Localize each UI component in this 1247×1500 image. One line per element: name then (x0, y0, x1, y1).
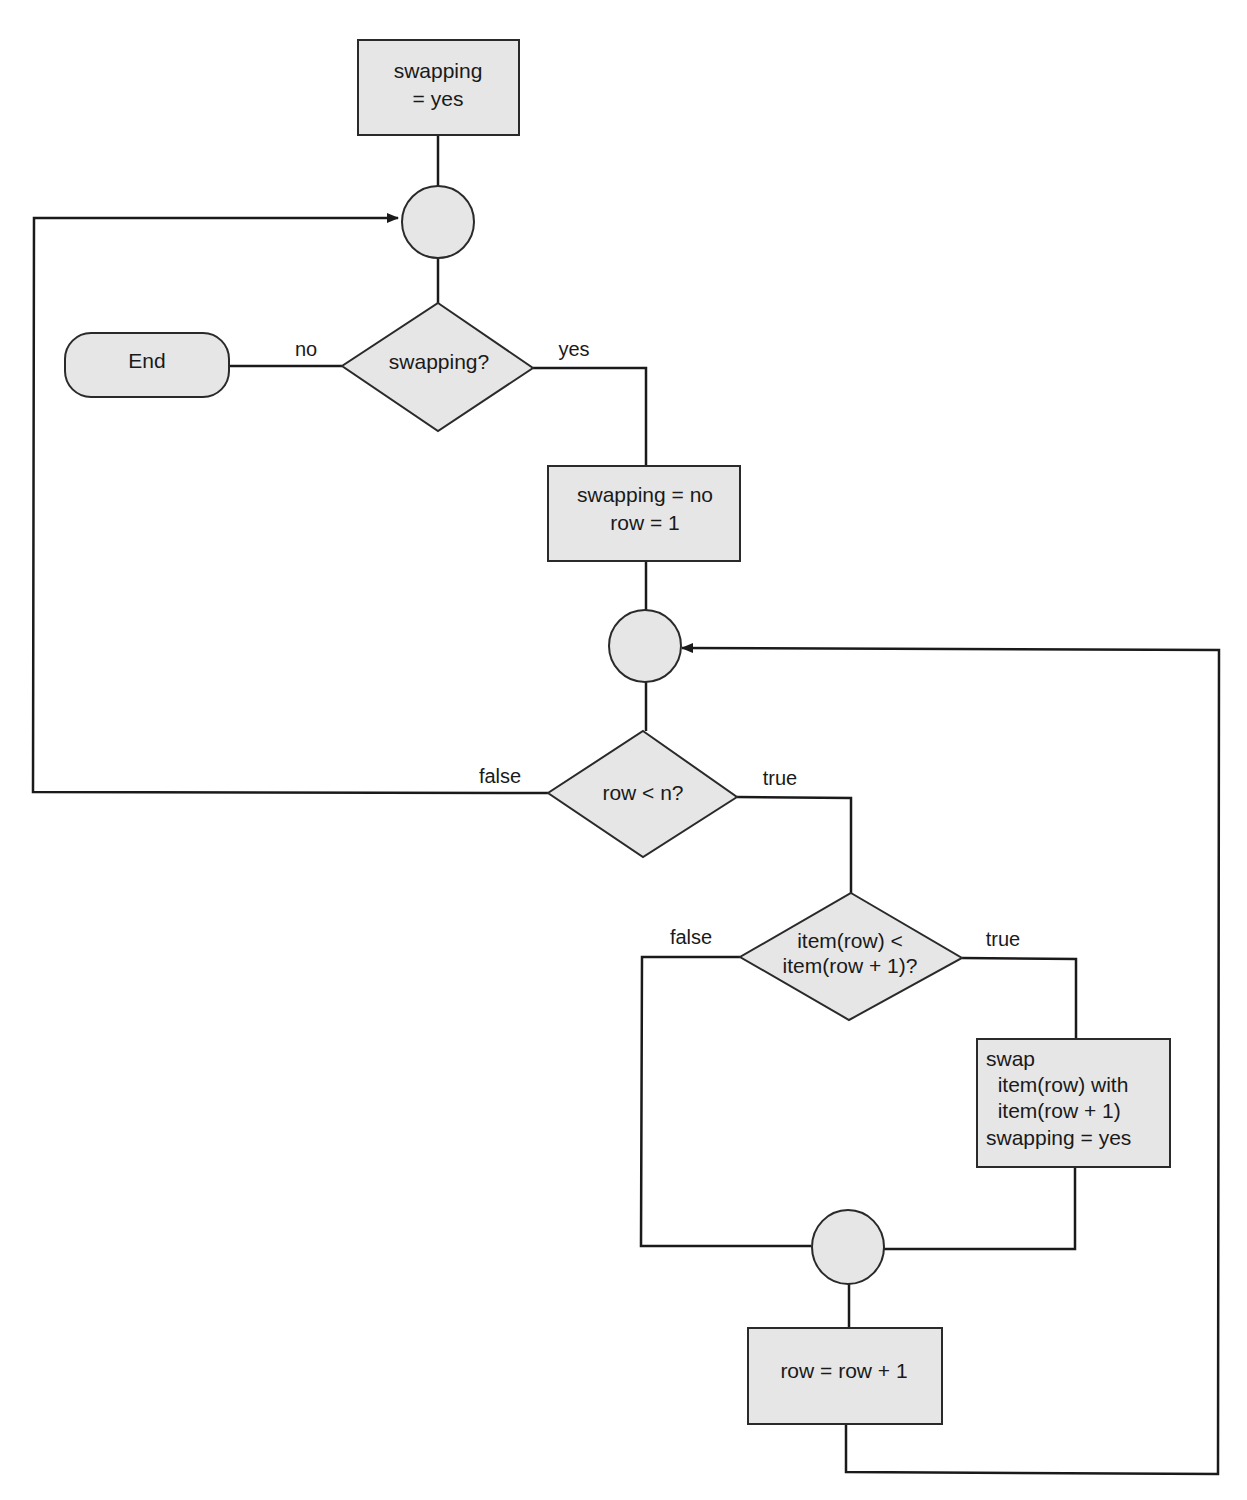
node-init-line-1: swapping (394, 59, 483, 82)
node-increment: row = row + 1 (748, 1328, 942, 1424)
edge-swapping-yes-to-reset (533, 368, 646, 466)
edge-compare-true-to-swap (962, 958, 1076, 1039)
node-init: swapping = yes (358, 40, 519, 135)
node-swap-line-3: item(row + 1) (986, 1099, 1121, 1122)
node-increment-text: row = row + 1 (780, 1359, 907, 1382)
decision-row-text: row < n? (602, 781, 683, 804)
edge-compare-false-to-junction3 (641, 957, 811, 1246)
decision-swapping-text: swapping? (389, 350, 489, 373)
junction-2-connector (609, 610, 681, 682)
end-text: End (128, 349, 165, 372)
node-decision-compare: item(row) < item(row + 1)? (740, 893, 962, 1020)
junction-1-connector (402, 186, 474, 258)
edge-swap-to-junction3 (884, 1168, 1075, 1249)
node-init-line-2: = yes (413, 87, 464, 110)
node-decision-row: row < n? (548, 731, 737, 857)
node-swap-line-1: swap (986, 1047, 1035, 1070)
node-end: End (65, 333, 229, 397)
flowchart-canvas: swapping = yes swapping? End no yes swap… (0, 0, 1247, 1500)
edge-label-row-false: false (479, 765, 521, 787)
node-reset-line-2: row = 1 (610, 511, 679, 534)
node-reset: swapping = no row = 1 (548, 466, 740, 561)
decision-compare-line-1: item(row) < (797, 929, 903, 952)
node-reset-line-1: swapping = no (577, 483, 713, 506)
node-swap-line-4: swapping = yes (986, 1126, 1131, 1149)
decision-compare-line-2: item(row + 1)? (783, 954, 918, 977)
node-decision-swapping: swapping? (342, 303, 533, 431)
junction-3-connector (812, 1210, 884, 1284)
edge-label-no: no (295, 338, 317, 360)
edge-label-row-true: true (763, 767, 797, 789)
edge-row-false-to-junction1 (33, 218, 548, 793)
edge-row-true-to-compare (737, 797, 851, 893)
edge-label-compare-false: false (670, 926, 712, 948)
edge-label-yes: yes (558, 338, 589, 360)
edge-label-compare-true: true (986, 928, 1020, 950)
node-swap: swap item(row) with item(row + 1) swappi… (977, 1039, 1170, 1167)
node-swap-line-2: item(row) with (986, 1073, 1128, 1096)
